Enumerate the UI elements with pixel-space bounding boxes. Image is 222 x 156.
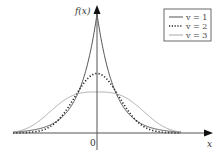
legend-label-v1: v = 1 [185,13,207,22]
legend-label-v2: v = 2 [185,22,207,31]
legend: v = 1 v = 2 v = 3 [164,9,211,41]
x-axis-label: x [207,139,212,149]
x-axis-arrow-icon [204,130,213,137]
y-axis-label: f(x) [74,6,91,16]
y-axis-arrow-icon [94,5,101,14]
legend-label-v3: v = 3 [185,31,207,40]
origin-label: 0 [90,138,96,148]
density-chart: f(x) x 0 v = 1 v = 2 v = 3 [0,0,222,156]
